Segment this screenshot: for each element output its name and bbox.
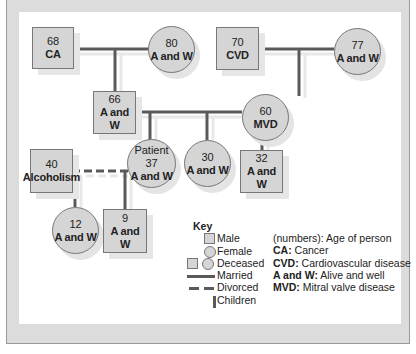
age-label: 77 [351, 39, 363, 52]
age-label: 40 [45, 158, 57, 171]
condition-label: Alcoholism [23, 171, 80, 184]
condition-label: CVD [226, 49, 249, 62]
node-ex-spouse: 40 Alcoholism [30, 149, 73, 193]
legend-item-divorced: Divorced [193, 281, 212, 293]
legend-item-children: Children [193, 294, 212, 306]
legend: Key Male Female Deceased Married Divorce… [193, 220, 212, 306]
node-mother: 60 MVD [242, 94, 289, 141]
abbreviation-item: A and W: Alive and well [273, 269, 411, 281]
node-maternal-grandmother: 77 A and W [334, 28, 381, 75]
age-label: 32 [255, 152, 267, 165]
dashed-line-icon [189, 287, 199, 290]
patient-label: Patient [134, 144, 168, 157]
age-label: 66 [108, 93, 120, 106]
circle-icon [204, 246, 216, 258]
solid-line-icon [187, 275, 215, 278]
node-daughter: 12 A and W [52, 207, 99, 254]
square-icon [187, 258, 198, 269]
age-label: 70 [231, 36, 243, 49]
node-sister: 30 A and W [184, 140, 231, 187]
node-patient: Patient 37 A and W [127, 139, 176, 188]
condition-label: A and W [241, 165, 282, 191]
condition-label: A and W [104, 225, 146, 251]
square-icon [204, 233, 215, 244]
age-label: 68 [47, 35, 59, 48]
abbreviation-item: MVD: Mitral valve disease [273, 281, 411, 293]
legend-item-male: Male [193, 232, 212, 244]
node-brother: 32 A and W [240, 150, 283, 193]
legend-item-deceased: Deceased [193, 257, 212, 269]
legend-title: Key [193, 220, 212, 232]
condition-label: A and W [94, 106, 135, 132]
abbreviation-list: (numbers): Age of person CA: Cancer CVD:… [273, 232, 411, 293]
node-paternal-grandfather: 68 CA [32, 27, 74, 69]
condition-label: CA [45, 48, 61, 61]
age-label: 12 [69, 218, 81, 231]
node-son: 9 A and W [103, 209, 147, 253]
condition-label: A and W [336, 52, 378, 65]
condition-label: A and W [130, 170, 172, 183]
age-label: 60 [259, 105, 271, 118]
age-label: 9 [122, 212, 128, 225]
age-label: 80 [165, 37, 177, 50]
condition-label: MVD [254, 118, 278, 131]
legend-item-female: Female [193, 245, 212, 257]
node-father: 66 A and W [93, 91, 136, 134]
age-label: 30 [201, 151, 213, 164]
dashed-line-icon [204, 287, 214, 290]
abbreviation-item: (numbers): Age of person [273, 232, 411, 244]
condition-label: A and W [54, 231, 96, 244]
circle-icon [202, 258, 214, 270]
age-label: 37 [145, 157, 157, 170]
abbreviation-item: CA: Cancer [273, 244, 411, 256]
vertical-line-icon [213, 296, 216, 308]
node-maternal-grandfather: 70 CVD [216, 27, 259, 70]
legend-item-married: Married [193, 269, 212, 281]
abbreviation-item: CVD: Cardiovascular disease [273, 257, 411, 269]
node-paternal-grandmother: 80 A and W [148, 26, 195, 73]
condition-label: A and W [186, 164, 228, 177]
condition-label: A and W [150, 50, 192, 63]
